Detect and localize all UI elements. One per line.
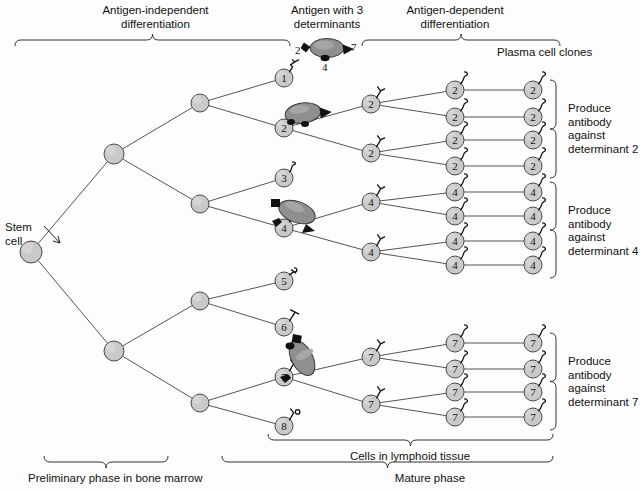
antigen-determinant-bottom-label: 4 <box>322 61 328 73</box>
clone-mid-4a: 4 <box>362 185 385 211</box>
clone-outer-4-2-label: 4 <box>530 210 536 222</box>
lineage-line <box>209 283 275 299</box>
brace-determinant-7 <box>550 333 556 430</box>
lymphocyte-3: 3 <box>275 162 295 187</box>
lymphocyte-5: 5 <box>275 268 297 290</box>
label-preliminary-phase-italic: marrow <box>164 472 202 484</box>
antigen-determinant-right-label: 7 <box>351 41 357 53</box>
label-mature-phase: Mature phase <box>370 472 490 486</box>
clone-mid-2a: 2 <box>362 87 385 113</box>
brace-layer <box>15 34 560 468</box>
progenitor-lower-b <box>191 394 209 412</box>
clone-outer-4-1: 4 <box>524 174 545 201</box>
receptor-icon <box>539 174 546 186</box>
receptor-icon <box>539 72 546 84</box>
lineage-line <box>380 203 446 214</box>
lineage-line <box>209 304 276 325</box>
receptor-icon <box>461 399 468 411</box>
clone-outer-7-4-label: 7 <box>530 411 536 423</box>
clone-mid-7a: 7 <box>362 340 385 366</box>
receptor-icon <box>377 387 385 398</box>
clone-outer-2-1-label: 2 <box>530 84 536 96</box>
clone-outer-7-3-label: 7 <box>530 386 536 398</box>
receptor-icon <box>461 325 468 337</box>
diagram-canvas: 12345678224477222244447777222244447777 <box>0 0 641 492</box>
receptor-icon <box>290 409 300 420</box>
group-text-determinant-7: Produce antibody against determinant 7 <box>568 355 638 409</box>
clone-outer-7-1-label: 7 <box>530 337 536 349</box>
clone-inner-2-2-label: 2 <box>452 111 458 123</box>
lineage-line <box>380 105 446 115</box>
clone-mid-2a-label: 2 <box>368 98 374 110</box>
brace-preliminary-phase <box>44 456 168 468</box>
antigen-free <box>301 39 353 62</box>
clone-outer-4-3-label: 4 <box>530 235 536 247</box>
clone-outer-4-3: 4 <box>524 223 545 250</box>
lineage-line <box>123 159 193 199</box>
clone-outer-7-2-label: 7 <box>530 363 536 375</box>
receptor-icon <box>461 351 468 363</box>
clone-inner-2-1-label: 2 <box>452 84 458 96</box>
lineage-line <box>38 260 108 343</box>
receptor-icon <box>290 268 297 275</box>
receptor-icon <box>539 325 546 337</box>
clone-outer-2-4: 2 <box>524 148 545 175</box>
title-antigen-3-determinants: Antigen with 3 determinants <box>272 4 382 31</box>
clone-mid-4b: 4 <box>362 235 385 261</box>
lineage-line <box>209 380 276 401</box>
clone-inner-4-1: 4 <box>446 174 467 201</box>
lineage-line <box>123 356 193 398</box>
receptor-icon <box>539 399 546 411</box>
progenitor-upper-b <box>191 195 209 213</box>
lineage-line <box>123 108 193 149</box>
clone-outer-2-3-label: 2 <box>530 134 536 146</box>
lymphocyte-2-label: 2 <box>281 122 287 134</box>
clone-inner-2-4: 2 <box>446 148 467 175</box>
progenitor-upper-a <box>191 94 209 112</box>
lymphocyte-8: 8 <box>275 409 300 435</box>
clone-outer-4-2: 4 <box>524 198 545 225</box>
clone-inner-7-4: 7 <box>446 399 467 426</box>
receptor-icon <box>377 340 385 351</box>
label-plasma-cell-clones: Plasma cell clones <box>497 46 592 60</box>
lineage-line <box>293 230 363 249</box>
title-antigen-independent: Antigen-independent differentiation <box>68 4 243 31</box>
progenitor-upper <box>104 144 124 164</box>
receptor-icon <box>461 174 468 186</box>
receptor-icon <box>539 223 546 235</box>
receptor-icon <box>290 162 296 172</box>
lineage-line <box>209 81 276 101</box>
clone-outer-4-1-label: 4 <box>530 186 536 198</box>
clone-inner-4-2-label: 4 <box>452 210 458 222</box>
lineage-line <box>209 181 276 202</box>
clone-mid-2b: 2 <box>362 136 385 162</box>
receptor-icon <box>461 223 468 235</box>
lineage-line <box>380 91 446 102</box>
clone-mid-4a-label: 4 <box>368 196 374 208</box>
lymphocyte-3-label: 3 <box>281 172 287 184</box>
clone-inner-7-2-label: 7 <box>452 363 458 375</box>
brace-cells-lymphoid <box>268 434 553 446</box>
group-text-determinant-4: Produce antibody against determinant 4 <box>568 204 638 258</box>
clone-inner-2-3-label: 2 <box>452 134 458 146</box>
antigen-bound-cell7 <box>280 334 320 383</box>
label-preliminary-phase-text: Preliminary phase in bone <box>28 472 164 484</box>
clone-mid-7b: 7 <box>362 387 385 413</box>
title-antigen-dependent: Antigen-dependent differentiation <box>390 4 520 31</box>
label-stem-cell: Stem cell <box>5 221 32 248</box>
receptor-icon <box>290 60 299 72</box>
clone-outer-4-4: 4 <box>524 247 545 274</box>
receptor-icon <box>377 87 385 98</box>
clone-outer-2-4-label: 2 <box>530 160 536 172</box>
clone-inner-2-4-label: 2 <box>452 160 458 172</box>
lymphocyte-6-label: 6 <box>281 321 287 333</box>
clone-inner-4-4-label: 4 <box>452 259 458 271</box>
lymphocyte-5-label: 5 <box>281 275 287 287</box>
lineage-line <box>209 106 276 126</box>
clone-outer-2-1: 2 <box>524 72 545 99</box>
lymphocyte-4-label: 4 <box>281 222 287 234</box>
clone-inner-4-3: 4 <box>446 223 467 250</box>
label-cells-lymphoid-tissue: Cells in lymphoid tissue <box>330 450 490 464</box>
lineage-line <box>380 141 446 151</box>
lineage-line <box>209 405 276 423</box>
